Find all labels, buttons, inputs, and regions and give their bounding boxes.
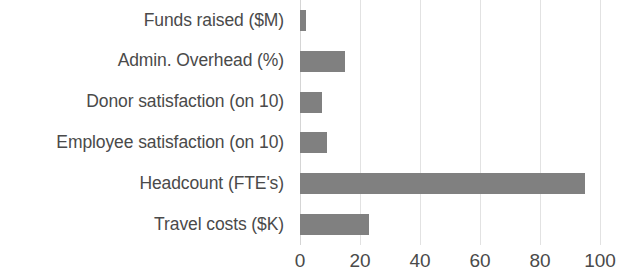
bar-row	[300, 163, 600, 204]
category-label-funds-raised: Funds raised ($M)	[0, 0, 292, 41]
bar[interactable]	[300, 173, 585, 194]
bar-series	[300, 0, 600, 245]
x-tick-label-40: 40	[409, 248, 430, 274]
category-label-text: Travel costs ($K)	[154, 216, 284, 234]
plot-area	[300, 0, 600, 245]
category-label-travel-costs: Travel costs ($K)	[0, 204, 292, 245]
bar-row	[300, 204, 600, 245]
bar-row	[300, 41, 600, 82]
category-label-text: Donor satisfaction (on 10)	[86, 93, 284, 111]
category-label-text: Funds raised ($M)	[144, 12, 284, 30]
bar-row	[300, 122, 600, 163]
x-tick-label-0: 0	[295, 248, 306, 274]
category-label-text: Headcount (FTE's)	[139, 175, 284, 193]
bar[interactable]	[300, 51, 345, 72]
bar[interactable]	[300, 92, 322, 113]
category-label-headcount: Headcount (FTE's)	[0, 163, 292, 204]
gridline-100	[600, 0, 601, 245]
bar-chart: Funds raised ($M) Admin. Overhead (%) Do…	[0, 0, 621, 279]
bar[interactable]	[300, 214, 369, 235]
category-axis-labels: Funds raised ($M) Admin. Overhead (%) Do…	[0, 0, 292, 245]
bar[interactable]	[300, 132, 327, 153]
bar[interactable]	[300, 10, 306, 31]
category-label-employee-satisfaction: Employee satisfaction (on 10)	[0, 122, 292, 163]
category-label-donor-satisfaction: Donor satisfaction (on 10)	[0, 82, 292, 123]
bar-row	[300, 82, 600, 123]
value-axis-labels: 020406080100	[0, 248, 621, 279]
bar-row	[300, 0, 600, 41]
category-label-text: Admin. Overhead (%)	[118, 52, 284, 70]
x-tick-label-60: 60	[469, 248, 490, 274]
category-label-text: Employee satisfaction (on 10)	[56, 134, 284, 152]
category-label-admin-overhead: Admin. Overhead (%)	[0, 41, 292, 82]
x-tick-label-100: 100	[584, 248, 616, 274]
x-tick-label-80: 80	[529, 248, 550, 274]
x-tick-label-20: 20	[349, 248, 370, 274]
